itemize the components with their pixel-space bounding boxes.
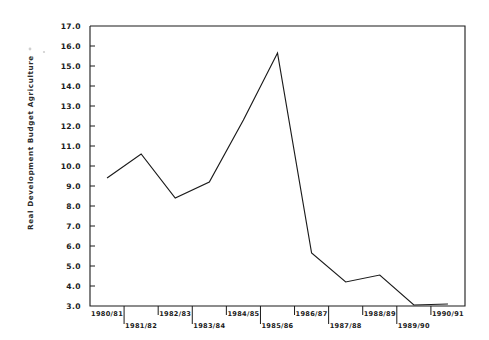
y-tick-label: 6.0 xyxy=(66,242,81,251)
y-axis-label: Real Development Budget Agriculture xyxy=(26,55,35,230)
y-tick-label: 14.0 xyxy=(61,82,81,91)
y-tick-label: 11.0 xyxy=(61,142,81,151)
y-tick-label: 7.0 xyxy=(66,222,81,231)
y-tick-label: 4.0 xyxy=(66,282,81,291)
x-tick-label: 1989/90 xyxy=(398,322,430,330)
y-tick-label: 12.0 xyxy=(61,122,81,131)
y-tick-label: 13.0 xyxy=(61,102,81,111)
y-tick-label: 17.0 xyxy=(61,22,81,31)
x-tick-label: 1982/83 xyxy=(159,310,191,318)
scan-speck xyxy=(43,51,45,53)
y-tick-label: 15.0 xyxy=(61,62,81,71)
x-tick-label: 1987/88 xyxy=(330,322,362,330)
y-axis-label-text: Real Development Budget Agriculture xyxy=(26,55,35,230)
y-tick-label: 3.0 xyxy=(66,302,81,311)
x-tick-label: 1983/84 xyxy=(193,322,225,330)
x-tick-label: 1988/89 xyxy=(364,310,396,318)
scan-speck xyxy=(29,48,32,51)
chart-figure: Real Development Budget Agriculture 17.0… xyxy=(0,0,489,340)
x-tick-label: 1986/87 xyxy=(296,310,328,318)
y-tick-label: 9.0 xyxy=(66,182,81,191)
y-tick-label: 10.0 xyxy=(61,162,81,171)
x-tick-label: 1985/86 xyxy=(261,322,293,330)
x-tick-label: 1981/82 xyxy=(125,322,157,330)
line-chart: Real Development Budget Agriculture 17.0… xyxy=(0,0,489,340)
x-tick-label: 1984/85 xyxy=(227,310,259,318)
y-tick-label: 16.0 xyxy=(61,42,81,51)
x-tick-label: 1990/91 xyxy=(432,310,464,318)
y-tick-label: 5.0 xyxy=(66,262,81,271)
y-tick-label: 8.0 xyxy=(66,202,81,211)
x-tick-label: 1980/81 xyxy=(91,310,123,318)
